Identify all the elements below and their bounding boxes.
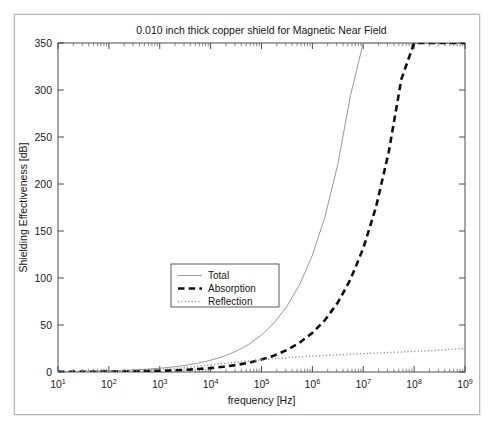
series-absorption bbox=[58, 43, 465, 372]
x-tick-label: 102 bbox=[101, 377, 117, 391]
y-axis-label: Shielding Effectiveness [dB] bbox=[17, 142, 29, 272]
series-total bbox=[58, 43, 465, 372]
x-tick-label: 103 bbox=[152, 377, 168, 391]
legend-label-absorption: Absorption bbox=[208, 283, 256, 294]
axes-group bbox=[58, 43, 465, 372]
legend-label-reflection: Reflection bbox=[208, 296, 252, 307]
y-tick-label: 350 bbox=[34, 37, 52, 49]
figure-frame: 0.010 inch thick copper shield for Magne… bbox=[14, 14, 480, 415]
x-tick-label: 105 bbox=[254, 377, 270, 391]
y-tick-label: 300 bbox=[34, 84, 52, 96]
y-tick-label: 250 bbox=[34, 131, 52, 143]
chart-title-group: 0.010 inch thick copper shield for Magne… bbox=[136, 24, 387, 36]
legend-label-total: Total bbox=[208, 270, 229, 281]
x-tick-label: 107 bbox=[355, 377, 371, 391]
y-tick-label: 200 bbox=[34, 178, 52, 190]
x-axis-label: frequency [Hz] bbox=[228, 394, 296, 406]
x-tick-label: 101 bbox=[50, 377, 66, 391]
y-tick-label: 0 bbox=[46, 366, 52, 378]
legend-group: TotalAbsorptionReflection bbox=[171, 264, 279, 307]
x-tick-label: 106 bbox=[305, 377, 321, 391]
series-group bbox=[58, 43, 465, 372]
y-tick-label: 150 bbox=[34, 225, 52, 237]
y-tick-label: 100 bbox=[34, 272, 52, 284]
chart-title: 0.010 inch thick copper shield for Magne… bbox=[136, 24, 387, 36]
chart-canvas: 0.010 inch thick copper shield for Magne… bbox=[15, 15, 481, 416]
y-tick-label: 50 bbox=[40, 319, 52, 331]
tick-group: 1011021031041051061071081090501001502002… bbox=[34, 37, 472, 390]
x-tick-label: 104 bbox=[203, 377, 219, 391]
plot-frame bbox=[58, 43, 465, 372]
x-tick-label: 108 bbox=[406, 377, 422, 391]
x-tick-label: 109 bbox=[457, 377, 473, 391]
